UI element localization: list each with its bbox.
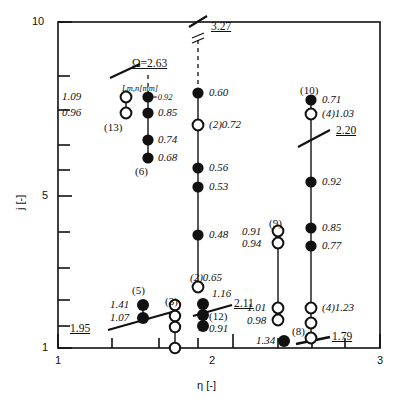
marker-open [121, 108, 132, 119]
annotation-omega-2-63: Ω=2.63 [132, 58, 167, 70]
annotation-2-20: 2.20 [336, 125, 356, 137]
value-label-4-1-23: (4)1.23 [322, 302, 354, 313]
annotation-1-79: 1.79 [332, 331, 352, 343]
count-label-10: (10) [300, 85, 318, 96]
marker-filled [192, 87, 203, 98]
value-label-0-85: 0.85 [158, 107, 177, 118]
value-label-0-92: 0.92 [322, 176, 341, 187]
count-label-9: (9) [269, 218, 282, 229]
value-label-0-91: 0.91 [242, 226, 261, 237]
x-tick-label-2: 2 [209, 355, 215, 366]
marker-filled [142, 134, 153, 145]
y-tick-label-1: 1 [42, 342, 48, 353]
value-label-0-98: 0.98 [247, 315, 266, 326]
annotation-1-95: 1.95 [70, 323, 90, 335]
marker-filled [142, 107, 153, 118]
marker-open [170, 322, 180, 332]
marker-filled [192, 162, 203, 173]
marker-filled [305, 222, 316, 233]
marker-group-col7 [197, 298, 209, 332]
value-label-2-0-72: (2)0.72 [209, 119, 241, 130]
marker-group-col8 [278, 335, 290, 347]
value-label-0-60: 0.60 [209, 87, 228, 98]
value-label-0-71: 0.71 [322, 94, 341, 105]
value-label-0-85b: 0.85 [322, 222, 341, 233]
count-label-3: (3) [165, 296, 178, 307]
leader-2-20 [298, 130, 330, 147]
marker-filled [142, 152, 153, 163]
marker-open [170, 343, 180, 353]
x-axis-title: η [-] [197, 380, 216, 391]
marker-filled [305, 240, 316, 251]
y-tick-label-5: 5 [42, 190, 48, 201]
value-label-0-94: 0.94 [242, 238, 261, 249]
count-label-8: (8) [292, 326, 305, 337]
marker-open [121, 92, 132, 103]
marker-open [273, 315, 284, 326]
marker-filled [137, 312, 149, 324]
marker-open [193, 120, 204, 131]
value-label-0-68: 0.68 [158, 152, 177, 163]
value-label-0-56: 0.56 [209, 162, 228, 173]
marker-open [306, 303, 317, 314]
marker-open [306, 109, 317, 120]
y-axis-ticks [58, 22, 72, 348]
lmn-label-line2: =0.92 [152, 93, 173, 102]
value-label-0-77: 0.77 [322, 240, 341, 251]
marker-filled [197, 320, 209, 332]
marker-filled [278, 335, 290, 347]
value-label-0-96: 0.96 [62, 107, 81, 118]
value-label-0-74: 0.74 [158, 134, 177, 145]
y-tick-label-10: 10 [32, 16, 44, 27]
annotation-3-27: 3.27 [211, 21, 231, 33]
count-label-13: (13) [104, 122, 122, 133]
value-label-2-0-65: (2)0.65 [190, 272, 222, 283]
marker-open [273, 238, 284, 249]
marker-open [306, 333, 317, 344]
x-tick-label-3: 3 [377, 355, 383, 366]
marker-filled [137, 299, 149, 311]
y-axis-title: j [-] [14, 195, 26, 210]
marker-group-col6 [170, 300, 180, 353]
value-label-0-53: 0.53 [209, 181, 228, 192]
marker-open [306, 318, 317, 329]
marker-filled [197, 309, 209, 321]
marker-open [273, 303, 284, 314]
value-label-1-16: 1.16 [212, 288, 231, 299]
value-label-1-01: 1.01 [247, 302, 266, 313]
leader-3-27 [189, 16, 207, 93]
value-label-0-91b: 0.91 [209, 323, 228, 334]
marker-filled [197, 298, 209, 310]
marker-filled [192, 181, 203, 192]
marker-open [170, 311, 180, 321]
marker-open [193, 282, 204, 293]
x-tick-label-1: 1 [55, 355, 61, 366]
value-label-0-48: 0.48 [209, 229, 228, 240]
count-label-5: (5) [132, 285, 145, 296]
value-label-1-09: 1.09 [62, 91, 81, 102]
chart-figure: 10 5 1 1 2 3 j [-] η [-] 1.09 0.96 (13) … [0, 0, 418, 406]
count-label-12: (12) [209, 311, 227, 322]
count-label-6: (6) [135, 166, 148, 177]
marker-filled [305, 94, 316, 105]
value-label-4-1-03: (4)1.03 [322, 108, 354, 119]
chart-canvas [0, 0, 418, 406]
marker-filled [192, 229, 203, 240]
value-label-1-41: 1.41 [110, 299, 129, 310]
marker-filled [305, 176, 316, 187]
value-label-1-07: 1.07 [110, 312, 129, 323]
value-label-1-34: 1.34 [256, 335, 275, 346]
